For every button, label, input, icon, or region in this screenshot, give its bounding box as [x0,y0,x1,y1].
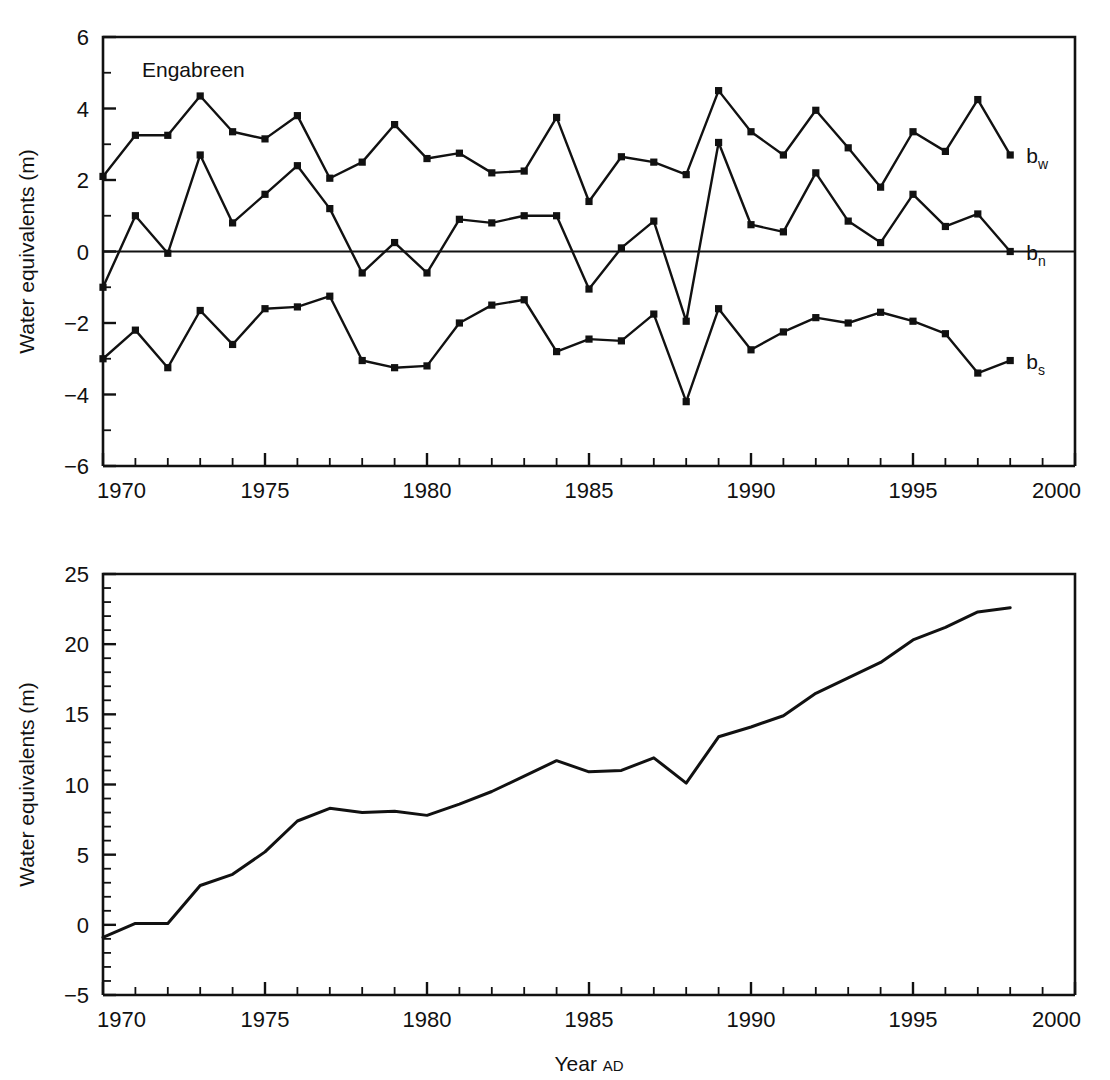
series-marker-bw [1007,151,1014,158]
bottom-y-axis-title: Water equivalents (m) [15,682,38,887]
series-marker-bn [618,244,625,251]
top-chart-panel: −6−4−202461970197519801985199019952000 E… [0,0,1110,520]
series-marker-bs [488,302,495,309]
series-marker-bn [391,239,398,246]
bottom-x-tick-label: 1970 [97,1007,146,1032]
series-marker-bn [650,218,657,225]
series-marker-bs [197,307,204,314]
series-marker-bs [521,296,528,303]
series-marker-bs [942,330,949,337]
series-marker-bn [780,228,787,235]
series-marker-bs [294,303,301,310]
bottom-series-group [103,608,1010,938]
top-x-tick-label: 1980 [403,478,452,503]
series-marker-bw [488,169,495,176]
series-marker-bn [1007,248,1014,255]
bottom-plot-frame [103,574,1075,995]
series-line-bw [103,91,1010,202]
series-marker-bw [877,184,884,191]
series-marker-bs [229,341,236,348]
top-y-tick-label: 6 [77,25,89,50]
series-label-subscript: w [1037,156,1049,172]
series-marker-bn [812,169,819,176]
bottom-y-tick-label: 10 [65,773,89,798]
series-marker-bn [715,139,722,146]
figure-container: −6−4−202461970197519801985199019952000 E… [0,0,1110,1080]
top-y-tick-label: −6 [64,454,89,479]
series-marker-bw [715,87,722,94]
series-marker-bs [164,364,171,371]
series-marker-bw [585,198,592,205]
bottom-chart-svg: −505101520251970197519801985199019952000… [0,545,1110,1080]
series-marker-bs [132,327,139,334]
top-x-tick-label: 1995 [889,478,938,503]
series-marker-bw [326,175,333,182]
series-marker-bw [197,92,204,99]
top-y-tick-label: 0 [77,240,89,265]
bottom-chart-panel: −505101520251970197519801985199019952000… [0,545,1110,1080]
top-y-tick-label: −4 [64,383,89,408]
series-marker-bn [553,212,560,219]
series-marker-bs [456,319,463,326]
series-marker-bw [294,112,301,119]
series-marker-bs [812,314,819,321]
bottom-x-tick-label: 1975 [241,1007,290,1032]
top-y-axis-title: Water equivalents (m) [15,149,38,354]
top-axes-group: −6−4−202461970197519801985199019952000 [64,25,1081,503]
series-marker-bs [326,293,333,300]
series-marker-bs [1007,357,1014,364]
series-marker-bn [909,191,916,198]
series-label-subscript: n [1038,253,1046,269]
series-marker-bs [391,364,398,371]
series-marker-bn [294,162,301,169]
top-chart-svg: −6−4−202461970197519801985199019952000 E… [0,0,1110,520]
series-marker-bw [423,155,430,162]
series-label-base: b [1026,241,1038,264]
bottom-x-tick-label: 1995 [889,1007,938,1032]
series-marker-bs [650,310,657,317]
series-marker-bn [747,221,754,228]
bottom-x-tick-label: 1980 [403,1007,452,1032]
series-marker-bn [423,269,430,276]
series-marker-bw [618,153,625,160]
top-labels-group: EngabreenWater equivalents (m)bwbnbs [15,58,1049,378]
bottom-x-tick-label: 2000 [1032,1007,1081,1032]
series-marker-bw [229,128,236,135]
series-marker-bw [942,148,949,155]
top-series-group [99,87,1013,405]
series-marker-bs [683,398,690,405]
series-label-base: b [1026,144,1038,167]
series-marker-bw [359,159,366,166]
top-y-tick-label: 4 [77,97,89,122]
series-marker-bs [747,346,754,353]
series-label-bs: bs [1026,350,1045,378]
top-x-tick-label: 1985 [565,478,614,503]
series-marker-bw [132,132,139,139]
series-marker-bn [359,269,366,276]
series-marker-bw [845,144,852,151]
series-marker-bs [585,335,592,342]
bottom-y-tick-label: −5 [64,983,89,1008]
bottom-y-tick-label: 0 [77,913,89,938]
top-panel-title: Engabreen [142,58,245,81]
series-marker-bn [521,212,528,219]
series-marker-bw [261,135,268,142]
series-marker-bn [845,218,852,225]
cumulative-balance-line [103,608,1010,938]
series-marker-bw [164,132,171,139]
bottom-y-tick-label: 25 [65,562,89,587]
series-marker-bs [909,318,916,325]
series-marker-bn [164,250,171,257]
series-marker-bn [326,205,333,212]
series-marker-bn [456,216,463,223]
series-marker-bn [683,318,690,325]
top-x-tick-label: 1970 [97,478,146,503]
top-x-tick-label: 2000 [1032,478,1081,503]
series-marker-bw [909,128,916,135]
series-marker-bw [650,159,657,166]
bottom-x-tick-label: 1985 [565,1007,614,1032]
series-marker-bn [99,284,106,291]
bottom-x-tick-label: 1990 [727,1007,776,1032]
x-axis-title-era: AD [603,1057,624,1074]
series-marker-bn [132,212,139,219]
